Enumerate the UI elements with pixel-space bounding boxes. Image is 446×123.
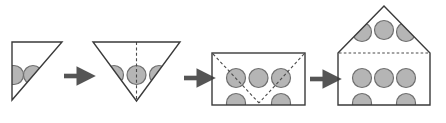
- circle: [227, 94, 246, 113]
- circle: [397, 23, 416, 42]
- step-3-rectangle: [212, 53, 305, 113]
- circle: [5, 66, 24, 85]
- circle: [105, 66, 124, 85]
- circle: [150, 66, 169, 85]
- circle: [353, 94, 372, 113]
- process-sequence-diagram: [0, 0, 446, 123]
- step-4-house-pentagon: [338, 6, 430, 113]
- circle: [397, 94, 416, 113]
- circle: [249, 69, 268, 88]
- circle: [353, 23, 372, 42]
- step-1-right-triangle: [5, 42, 63, 100]
- figure-canvas: [0, 0, 446, 123]
- circle: [353, 69, 372, 88]
- circle: [397, 69, 416, 88]
- circle: [375, 69, 394, 88]
- step-2-inverted-triangle: [93, 42, 180, 101]
- circle: [272, 94, 291, 113]
- circle: [375, 21, 394, 40]
- step-1-circle-group: [5, 66, 43, 85]
